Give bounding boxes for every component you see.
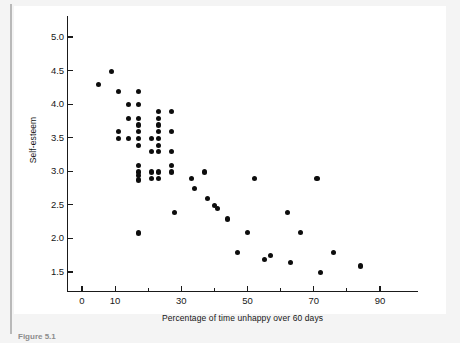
data-point [156,176,161,181]
data-point [252,176,257,181]
page-background: Self-esteem Percentage of time unhappy o… [0,0,460,343]
data-point [116,136,121,141]
data-point [205,196,210,201]
data-point [156,136,161,141]
data-point [225,216,230,221]
data-point [285,210,290,215]
data-point [149,136,154,141]
data-point [169,149,174,154]
data-point [136,116,141,121]
data-point [149,176,154,181]
data-point [109,69,114,74]
data-point [202,169,207,174]
data-point [156,169,161,174]
data-point [136,177,141,182]
data-point [245,230,250,235]
data-point [116,129,121,134]
data-point [169,169,174,174]
data-point [156,149,161,154]
data-point [288,260,293,265]
data-point [156,129,161,134]
data-point [189,176,194,181]
data-point [156,143,161,148]
data-point [192,186,197,191]
data-point [358,263,363,268]
data-point [215,206,220,211]
data-point [298,230,303,235]
data-point [314,176,319,181]
data-point [126,102,131,107]
data-point [96,82,101,87]
scatter-series [0,0,460,343]
data-point [149,149,154,154]
data-point [136,122,141,127]
data-point [126,136,131,141]
data-point [156,116,161,121]
data-point [136,129,141,134]
data-point [136,89,141,94]
data-point [172,210,177,215]
data-point [116,89,121,94]
data-point [136,230,141,235]
data-point [169,163,174,168]
data-point [235,250,240,255]
data-point [262,257,267,262]
data-point [156,109,161,114]
data-point [169,109,174,114]
data-point [318,270,323,275]
data-point [268,253,273,258]
data-point [331,250,336,255]
data-point [136,163,141,168]
data-point [136,136,141,141]
figure-caption: Figure 5.1 [18,332,56,343]
data-point [136,143,141,148]
data-point [126,116,131,121]
data-point [169,129,174,134]
data-point [156,122,161,127]
data-point [136,102,141,107]
data-point [149,169,154,174]
